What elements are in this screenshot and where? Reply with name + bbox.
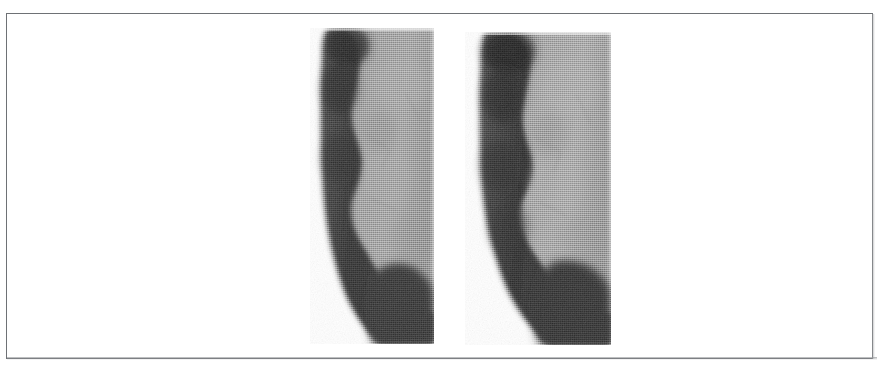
figure-frame: [6, 13, 873, 359]
scan-panel-left: [310, 28, 434, 344]
figure-root: [0, 0, 883, 371]
scan-image-left: [310, 28, 434, 344]
scan-panel-right: [465, 32, 611, 345]
scan-image-right: [465, 32, 611, 345]
